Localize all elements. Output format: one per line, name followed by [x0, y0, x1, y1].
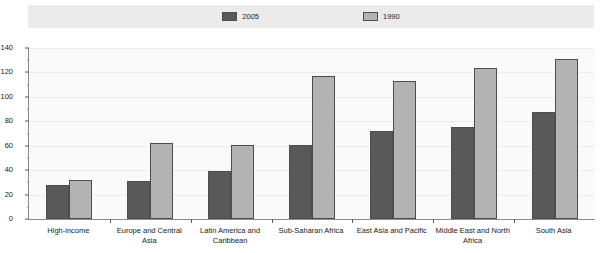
bar-2005[interactable] — [208, 171, 231, 219]
bar-1990[interactable] — [312, 76, 335, 219]
bar-2005[interactable] — [532, 112, 555, 219]
x-axis-category-label: Latin America and Caribbean — [190, 226, 271, 245]
bar-group-bars — [29, 48, 110, 219]
x-axis-category-label: High-income — [28, 226, 109, 236]
plot-area: 020406080100120140 — [28, 48, 595, 220]
bar-group-bars — [514, 48, 595, 219]
bar-group-bars — [352, 48, 433, 219]
x-axis-tick — [191, 219, 192, 223]
bar-group-bars — [433, 48, 514, 219]
bar-group-bars — [272, 48, 353, 219]
x-axis-category-label: Middle East and North Africa — [432, 226, 513, 245]
bar-group — [514, 48, 595, 219]
bar-1990[interactable] — [393, 81, 416, 219]
bar-group-bars — [191, 48, 272, 219]
legend-item-1990: 1990 — [363, 12, 400, 21]
y-axis-label: 20 — [0, 191, 13, 199]
bar-2005[interactable] — [127, 181, 150, 219]
bar-1990[interactable] — [69, 180, 92, 219]
bar-2005[interactable] — [451, 127, 474, 219]
legend-label-2005: 2005 — [242, 13, 259, 21]
bar-chart: 2005 1990 020406080100120140 High-income… — [0, 0, 606, 253]
bar-group — [272, 48, 353, 219]
bar-1990[interactable] — [555, 59, 578, 219]
x-axis-category-label: South Asia — [513, 226, 594, 236]
bar-2005[interactable] — [370, 131, 393, 219]
x-axis-tick — [433, 219, 434, 223]
y-axis-label: 120 — [0, 69, 13, 77]
legend-item-2005: 2005 — [222, 12, 259, 21]
x-axis-category-label: Sub-Saharan Africa — [271, 226, 352, 236]
x-axis-tick — [272, 219, 273, 223]
bar-group — [29, 48, 110, 219]
legend-label-1990: 1990 — [383, 13, 400, 21]
x-axis-tick — [514, 219, 515, 223]
bar-1990[interactable] — [231, 145, 254, 220]
y-axis-label: 0 — [0, 215, 13, 223]
bar-group — [433, 48, 514, 219]
x-axis-category-label: East Asia and Pacific — [351, 226, 432, 236]
bar-1990[interactable] — [150, 143, 173, 219]
legend-swatch-1990 — [363, 12, 378, 21]
legend-swatch-2005 — [222, 12, 237, 21]
chart-legend: 2005 1990 — [28, 5, 594, 28]
bar-group-bars — [110, 48, 191, 219]
x-axis-tick — [110, 219, 111, 223]
x-axis-tick — [352, 219, 353, 223]
bar-group — [191, 48, 272, 219]
bar-1990[interactable] — [474, 68, 497, 219]
bar-2005[interactable] — [46, 185, 69, 219]
bar-group — [352, 48, 433, 219]
x-axis-category-label: Europe and Central Asia — [109, 226, 190, 245]
bar-group — [110, 48, 191, 219]
bar-2005[interactable] — [289, 145, 312, 220]
y-axis-label: 80 — [0, 118, 13, 126]
y-axis-label: 140 — [0, 44, 13, 52]
y-axis-label: 60 — [0, 142, 13, 150]
y-axis-label: 40 — [0, 166, 13, 174]
y-axis-label: 100 — [0, 93, 13, 101]
